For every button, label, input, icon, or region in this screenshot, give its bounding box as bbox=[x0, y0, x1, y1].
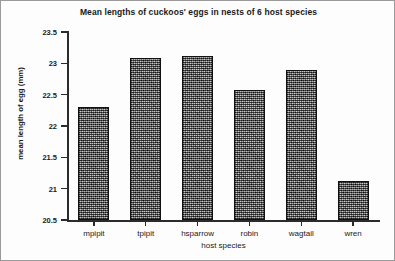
y-axis-tick-label: 21.5 bbox=[17, 153, 57, 162]
bar-hsparrow bbox=[182, 56, 213, 220]
y-axis-tick-label: 22 bbox=[17, 122, 57, 131]
chart-figure: Mean lengths of cuckoos' eggs in nests o… bbox=[0, 0, 395, 261]
x-axis-tick bbox=[197, 220, 198, 226]
y-axis-tick bbox=[61, 63, 68, 64]
x-axis-tick bbox=[145, 220, 146, 226]
x-axis-line bbox=[67, 220, 380, 222]
bar-tpipit bbox=[130, 58, 161, 220]
y-axis-tick bbox=[61, 94, 68, 95]
bar-robin bbox=[234, 90, 265, 220]
x-axis-tick bbox=[352, 220, 353, 226]
x-axis-title: host species bbox=[68, 241, 379, 250]
y-axis-tick-label: 21 bbox=[17, 185, 57, 194]
y-axis-tick bbox=[61, 125, 68, 126]
plot-area bbox=[68, 32, 379, 220]
bar-wren bbox=[338, 181, 369, 220]
x-axis-tick-label-wren: wren bbox=[313, 229, 393, 238]
y-axis-tick bbox=[61, 157, 68, 158]
x-axis-tick bbox=[301, 220, 302, 226]
y-axis-tick-label: 20.5 bbox=[17, 216, 57, 225]
y-axis-tick bbox=[61, 219, 68, 220]
y-axis-tick bbox=[61, 188, 68, 189]
chart-title: Mean lengths of cuckoos' eggs in nests o… bbox=[1, 7, 395, 17]
y-axis-tick bbox=[61, 31, 68, 32]
y-axis-tick-label: 22.5 bbox=[17, 91, 57, 100]
bar-mpipit bbox=[78, 107, 109, 220]
x-axis-tick bbox=[93, 220, 94, 226]
x-axis-tick bbox=[249, 220, 250, 226]
y-axis-tick-label: 23.5 bbox=[17, 28, 57, 37]
y-axis-tick-label: 23 bbox=[17, 59, 57, 68]
bar-wagtail bbox=[286, 70, 317, 220]
